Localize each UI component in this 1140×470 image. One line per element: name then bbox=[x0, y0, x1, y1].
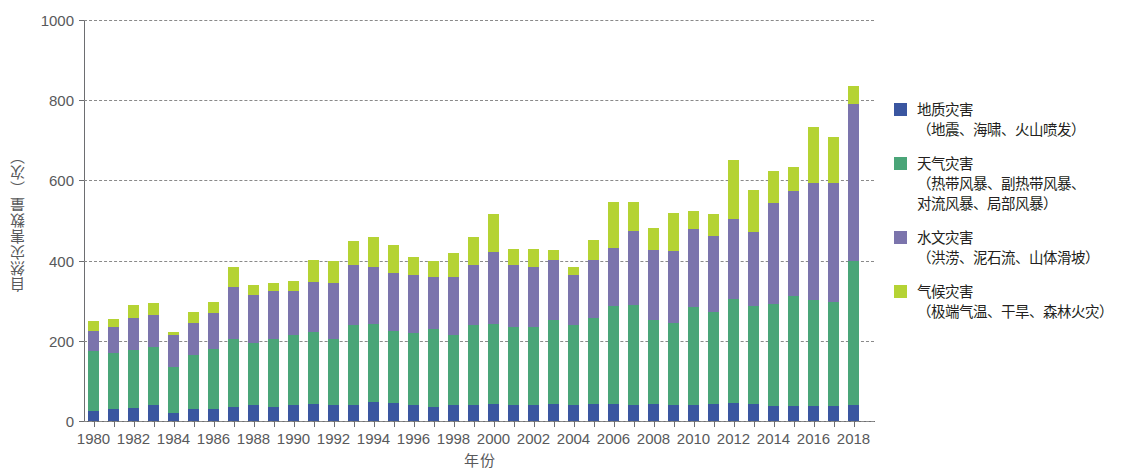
bar-segment-水文灾害 bbox=[588, 260, 599, 318]
bar-segment-天气灾害 bbox=[428, 329, 439, 407]
bar-segment-气候灾害 bbox=[448, 253, 459, 277]
bar-1990 bbox=[288, 281, 299, 421]
bar-segment-天气灾害 bbox=[188, 355, 199, 409]
bar-segment-气候灾害 bbox=[368, 237, 379, 267]
bar-2002 bbox=[528, 249, 539, 421]
legend-item-0[interactable]: 地质灾害（地震、海啸、火山喷发） bbox=[894, 100, 1138, 140]
bar-segment-地质灾害 bbox=[688, 405, 699, 421]
bar-segment-水文灾害 bbox=[248, 295, 259, 343]
bar-segment-地质灾害 bbox=[468, 405, 479, 421]
bar-segment-气候灾害 bbox=[768, 171, 779, 203]
bar-segment-地质灾害 bbox=[368, 402, 379, 421]
bar-segment-地质灾害 bbox=[328, 405, 339, 421]
bar-segment-气候灾害 bbox=[848, 86, 859, 104]
bar-segment-天气灾害 bbox=[628, 305, 639, 405]
bar-segment-水文灾害 bbox=[708, 236, 719, 312]
bar-segment-天气灾害 bbox=[708, 312, 719, 404]
bar-segment-水文灾害 bbox=[768, 203, 779, 303]
bar-segment-天气灾害 bbox=[808, 300, 819, 406]
bar-segment-天气灾害 bbox=[668, 323, 679, 405]
bar-segment-水文灾害 bbox=[848, 104, 859, 260]
bar-segment-地质灾害 bbox=[668, 405, 679, 421]
x-tick-mark bbox=[654, 421, 655, 427]
legend-swatch-icon bbox=[894, 103, 907, 116]
y-tick-mark bbox=[79, 20, 84, 21]
y-tick-mark bbox=[79, 341, 84, 342]
x-tick-mark bbox=[454, 421, 455, 427]
bar-segment-水文灾害 bbox=[128, 318, 139, 350]
bar-segment-气候灾害 bbox=[348, 241, 359, 265]
bar-segment-天气灾害 bbox=[388, 331, 399, 403]
legend-item-2[interactable]: 水文灾害（洪涝、泥石流、山体滑坡） bbox=[894, 228, 1138, 268]
legend-item-3[interactable]: 气候灾害（极端气温、干旱、森林火灾） bbox=[894, 282, 1138, 322]
bar-segment-地质灾害 bbox=[448, 405, 459, 421]
bar-segment-地质灾害 bbox=[848, 405, 859, 421]
bar-segment-地质灾害 bbox=[548, 404, 559, 421]
bar-1985 bbox=[188, 312, 199, 421]
bar-segment-天气灾害 bbox=[588, 318, 599, 404]
bar-segment-地质灾害 bbox=[808, 406, 819, 421]
bar-segment-天气灾害 bbox=[348, 325, 359, 405]
x-tick-mark bbox=[714, 421, 715, 427]
bar-2015 bbox=[788, 167, 799, 421]
bar-2011 bbox=[708, 214, 719, 421]
bar-1980 bbox=[88, 321, 99, 421]
bar-segment-水文灾害 bbox=[468, 265, 479, 325]
bar-segment-地质灾害 bbox=[108, 409, 119, 421]
bar-segment-地质灾害 bbox=[228, 407, 239, 421]
bar-segment-天气灾害 bbox=[408, 333, 419, 405]
bar-segment-地质灾害 bbox=[608, 404, 619, 421]
bar-1983 bbox=[148, 303, 159, 421]
bar-2005 bbox=[588, 240, 599, 421]
bar-segment-天气灾害 bbox=[288, 335, 299, 405]
bar-segment-气候灾害 bbox=[548, 250, 559, 260]
bar-segment-天气灾害 bbox=[648, 320, 659, 404]
bar-segment-地质灾害 bbox=[408, 405, 419, 421]
bar-segment-水文灾害 bbox=[208, 313, 219, 349]
bar-segment-地质灾害 bbox=[248, 405, 259, 421]
x-tick-mark bbox=[194, 421, 195, 427]
bar-segment-气候灾害 bbox=[688, 211, 699, 229]
bar-segment-水文灾害 bbox=[808, 183, 819, 299]
bar-segment-地质灾害 bbox=[88, 411, 99, 421]
bar-segment-地质灾害 bbox=[508, 405, 519, 421]
x-tick-mark bbox=[514, 421, 515, 427]
bar-segment-水文灾害 bbox=[388, 273, 399, 331]
bar-segment-水文灾害 bbox=[568, 275, 579, 325]
x-tick-mark bbox=[414, 421, 415, 427]
x-tick-mark bbox=[734, 421, 735, 427]
x-tick-mark bbox=[434, 421, 435, 427]
bar-segment-气候灾害 bbox=[248, 285, 259, 295]
bar-1982 bbox=[128, 305, 139, 421]
bar-1984 bbox=[168, 332, 179, 421]
x-tick-mark bbox=[214, 421, 215, 427]
bar-segment-地质灾害 bbox=[148, 405, 159, 421]
bar-segment-气候灾害 bbox=[728, 160, 739, 218]
x-tick-mark bbox=[394, 421, 395, 427]
legend-category-name: 水文灾害 bbox=[917, 228, 1099, 248]
bar-2017 bbox=[828, 137, 839, 421]
bar-segment-水文灾害 bbox=[528, 267, 539, 327]
bar-segment-水文灾害 bbox=[168, 335, 179, 367]
bar-segment-水文灾害 bbox=[348, 265, 359, 325]
bar-segment-水文灾害 bbox=[748, 232, 759, 306]
x-tick-mark bbox=[174, 421, 175, 427]
x-tick-mark bbox=[834, 421, 835, 427]
x-tick-mark bbox=[154, 421, 155, 427]
bar-segment-天气灾害 bbox=[448, 335, 459, 405]
legend-swatch-icon bbox=[894, 231, 907, 244]
bar-segment-水文灾害 bbox=[268, 291, 279, 339]
x-tick-mark bbox=[754, 421, 755, 427]
legend-item-1[interactable]: 天气灾害（热带风暴、副热带风暴、 对流风暴、局部风暴） bbox=[894, 154, 1138, 214]
bar-segment-水文灾害 bbox=[608, 248, 619, 306]
bar-segment-气候灾害 bbox=[108, 319, 119, 327]
y-tick-mark bbox=[79, 421, 84, 422]
bar-2000 bbox=[488, 214, 499, 421]
gridline bbox=[84, 180, 874, 181]
bar-1995 bbox=[388, 245, 399, 421]
bar-segment-水文灾害 bbox=[628, 231, 639, 305]
bar-segment-气候灾害 bbox=[88, 321, 99, 331]
bar-segment-气候灾害 bbox=[128, 305, 139, 318]
bar-1996 bbox=[408, 257, 419, 421]
bar-segment-水文灾害 bbox=[508, 265, 519, 327]
